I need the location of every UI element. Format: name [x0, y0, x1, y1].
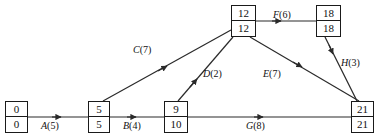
edge-label-G: G(8) [246, 120, 265, 131]
edge-label-E-weight: (7) [269, 68, 281, 79]
edge-label-F-weight: (6) [279, 9, 291, 20]
node-v6-latest: 21 [352, 117, 373, 132]
node-v3-earliest: 9 [165, 102, 187, 117]
edge-label-B-weight: (4) [129, 120, 141, 131]
node-v6-earliest: 21 [352, 102, 373, 117]
edge-C [103, 30, 231, 101]
node-v1-earliest: 0 [6, 102, 27, 117]
node-v6[interactable]: 21 21 [351, 101, 374, 133]
edge-label-C-weight: (7) [140, 44, 152, 55]
edge-label-E: E(7) [263, 68, 281, 79]
node-v2-earliest: 5 [89, 102, 109, 117]
node-v5[interactable]: 18 18 [316, 5, 341, 37]
edge-label-H-weight: (3) [348, 57, 360, 68]
edge-label-D: D(2) [203, 68, 222, 79]
node-v2-latest: 5 [89, 117, 109, 132]
edge-label-C-activity: C [133, 44, 140, 55]
edge-label-C: C(7) [133, 44, 151, 55]
edge-label-B: B(4) [123, 120, 141, 131]
edge-label-F: F(6) [273, 9, 291, 20]
node-v1-latest: 0 [6, 117, 27, 132]
node-v5-earliest: 18 [317, 6, 340, 21]
edge-H [325, 37, 357, 101]
edge-label-H: H(3) [341, 57, 360, 68]
node-v4-latest: 12 [232, 21, 255, 36]
edge-label-A: A(5) [41, 120, 59, 131]
edge-label-A-weight: (5) [47, 120, 59, 131]
diagram-canvas: 0 0 5 5 9 10 12 12 18 18 21 21 A(5) B(4)… [0, 0, 375, 134]
node-v2[interactable]: 5 5 [88, 101, 110, 133]
edge-label-D-weight: (2) [210, 68, 222, 79]
node-v4[interactable]: 12 12 [231, 5, 256, 37]
edge-label-G-weight: (8) [253, 120, 265, 131]
node-v1[interactable]: 0 0 [5, 101, 28, 133]
node-v3-latest: 10 [165, 117, 187, 132]
node-v5-latest: 18 [317, 21, 340, 36]
node-v4-earliest: 12 [232, 6, 255, 21]
node-v3[interactable]: 9 10 [164, 101, 188, 133]
